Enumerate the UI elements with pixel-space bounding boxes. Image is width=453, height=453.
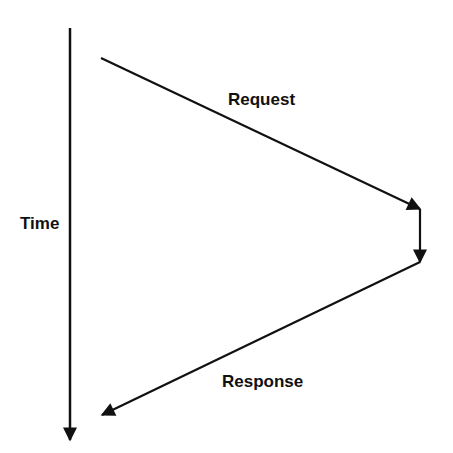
request-label: Request <box>228 90 295 109</box>
response-arrow <box>102 262 420 415</box>
response-label: Response <box>222 372 303 391</box>
request-arrow <box>101 58 420 209</box>
time-label: Time <box>20 214 59 233</box>
request-response-diagram: Time Request Response <box>0 0 453 453</box>
